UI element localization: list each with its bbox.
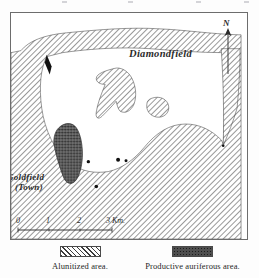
scale-bar-rule xyxy=(16,226,134,235)
alunitized-island-small xyxy=(147,97,169,117)
legend-label-alunitized: Alunitized area. xyxy=(20,261,140,271)
mine-dot xyxy=(87,160,90,163)
legend-swatch-productive xyxy=(172,246,213,257)
scale-tick-1: 1 xyxy=(46,216,50,225)
cropped-text-remnants xyxy=(0,0,259,6)
north-arrow: N xyxy=(219,18,237,76)
mine-dot xyxy=(116,158,120,162)
legend: Alunitized area. Productive auriferous a… xyxy=(0,246,259,278)
map-label-goldfield: Goldfield (Town) xyxy=(10,172,44,192)
mine-dot xyxy=(222,145,225,148)
map-label-goldfield-sub: (Town) xyxy=(10,182,44,192)
scale-tick-0: 0 xyxy=(16,216,20,225)
legend-label-productive: Productive auriferous area. xyxy=(130,261,255,271)
map-frame: Diamondfield Goldfield (Town) xyxy=(10,12,248,240)
mine-dot xyxy=(125,159,128,162)
mine-dot xyxy=(94,185,98,189)
scale-bar: 0 1 2 3 Km. xyxy=(16,216,134,236)
legend-item-productive: Productive auriferous area. xyxy=(130,246,255,271)
map-label-goldfield-name: Goldfield xyxy=(10,172,44,182)
legend-item-alunitized: Alunitized area. xyxy=(20,246,140,271)
figure-page: Diamondfield Goldfield (Town) N 0 1 2 3 … xyxy=(0,0,259,278)
scale-tick-3: 3 Km. xyxy=(106,216,125,225)
map-drawing xyxy=(11,13,247,239)
north-arrow-label: N xyxy=(223,18,230,28)
map-label-diamondfield: Diamondfield xyxy=(129,48,192,59)
legend-swatch-alunitized xyxy=(60,246,101,257)
scale-tick-2: 2 xyxy=(77,216,81,225)
alunitized-island-central xyxy=(96,68,136,118)
